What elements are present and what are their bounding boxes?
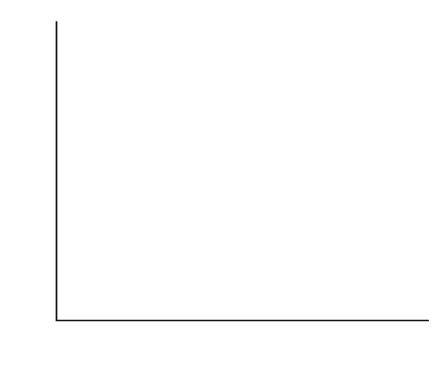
axis-spine	[57, 22, 429, 321]
axes-group	[57, 22, 429, 321]
scatter-plot-figure	[0, 0, 439, 380]
plot-canvas	[0, 0, 439, 380]
